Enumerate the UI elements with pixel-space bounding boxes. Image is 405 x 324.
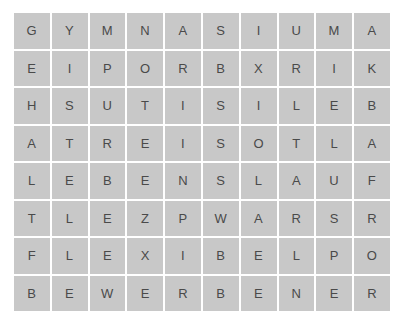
letter-cell[interactable]: L [316, 126, 352, 162]
letter-cell[interactable]: N [165, 163, 201, 199]
letter-cell[interactable]: B [203, 51, 239, 87]
letter-cell[interactable]: E [241, 276, 277, 312]
letter-cell[interactable]: A [165, 13, 201, 49]
letter-cell[interactable]: S [203, 163, 239, 199]
letter-cell[interactable]: I [241, 13, 277, 49]
letter-cell[interactable]: R [354, 201, 390, 237]
letter-cell[interactable]: H [14, 88, 50, 124]
letter-cell[interactable]: E [90, 238, 126, 274]
letter-cell[interactable]: U [90, 88, 126, 124]
letter-cell[interactable]: Z [127, 201, 163, 237]
letter-cell[interactable]: W [90, 276, 126, 312]
letter-cell[interactable]: A [354, 126, 390, 162]
letter-cell[interactable]: Y [52, 13, 88, 49]
letter-cell[interactable]: T [14, 201, 50, 237]
letter-cell[interactable]: L [279, 238, 315, 274]
letter-cell[interactable]: K [354, 51, 390, 87]
letter-cell[interactable]: E [316, 88, 352, 124]
letter-cell[interactable]: O [354, 238, 390, 274]
letter-cell[interactable]: E [316, 276, 352, 312]
letter-cell[interactable]: X [241, 51, 277, 87]
letter-cell[interactable]: B [203, 276, 239, 312]
letter-cell[interactable]: O [127, 51, 163, 87]
letter-cell[interactable]: I [241, 88, 277, 124]
letter-cell[interactable]: R [90, 126, 126, 162]
letter-cell[interactable]: W [203, 201, 239, 237]
letter-cell[interactable]: E [52, 276, 88, 312]
letter-cell[interactable]: T [279, 126, 315, 162]
letter-cell[interactable]: M [90, 13, 126, 49]
letter-cell[interactable]: F [354, 163, 390, 199]
letter-cell[interactable]: R [279, 51, 315, 87]
letter-cell[interactable]: S [316, 201, 352, 237]
letter-cell[interactable]: E [127, 126, 163, 162]
letter-cell[interactable]: E [127, 276, 163, 312]
letter-cell[interactable]: E [241, 238, 277, 274]
letter-cell[interactable]: T [52, 126, 88, 162]
letter-cell[interactable]: A [14, 126, 50, 162]
letter-cell[interactable]: I [165, 88, 201, 124]
letter-cell[interactable]: B [203, 238, 239, 274]
letter-cell[interactable]: R [165, 276, 201, 312]
letter-cell[interactable]: B [14, 276, 50, 312]
letter-cell[interactable]: N [279, 276, 315, 312]
letter-cell[interactable]: B [354, 88, 390, 124]
letter-cell[interactable]: O [241, 126, 277, 162]
letter-cell[interactable]: E [52, 163, 88, 199]
letter-cell[interactable]: S [203, 13, 239, 49]
word-search-puzzle: GYMNASIUMAEIPORBXRIKHSUTISILEBATREISOTLA… [0, 0, 405, 324]
letter-cell[interactable]: S [203, 88, 239, 124]
letter-cell[interactable]: F [14, 238, 50, 274]
letter-cell[interactable]: B [90, 163, 126, 199]
letter-cell[interactable]: G [14, 13, 50, 49]
letter-cell[interactable]: X [127, 238, 163, 274]
letter-cell[interactable]: I [316, 51, 352, 87]
letter-cell[interactable]: E [14, 51, 50, 87]
letter-grid: GYMNASIUMAEIPORBXRIKHSUTISILEBATREISOTLA… [14, 13, 390, 311]
letter-cell[interactable]: N [127, 13, 163, 49]
letter-cell[interactable]: E [127, 163, 163, 199]
letter-cell[interactable]: I [165, 126, 201, 162]
letter-cell[interactable]: L [241, 163, 277, 199]
letter-cell[interactable]: L [52, 201, 88, 237]
letter-cell[interactable]: E [90, 201, 126, 237]
letter-cell[interactable]: R [165, 51, 201, 87]
letter-cell[interactable]: I [52, 51, 88, 87]
letter-cell[interactable]: L [52, 238, 88, 274]
letter-cell[interactable]: P [90, 51, 126, 87]
letter-cell[interactable]: L [279, 88, 315, 124]
letter-cell[interactable]: R [354, 276, 390, 312]
letter-cell[interactable]: A [241, 201, 277, 237]
letter-cell[interactable]: U [279, 13, 315, 49]
letter-cell[interactable]: I [165, 238, 201, 274]
letter-cell[interactable]: S [52, 88, 88, 124]
letter-cell[interactable]: T [127, 88, 163, 124]
letter-cell[interactable]: A [279, 163, 315, 199]
letter-cell[interactable]: S [203, 126, 239, 162]
letter-cell[interactable]: A [354, 13, 390, 49]
letter-cell[interactable]: L [14, 163, 50, 199]
letter-cell[interactable]: P [165, 201, 201, 237]
letter-cell[interactable]: R [279, 201, 315, 237]
letter-cell[interactable]: U [316, 163, 352, 199]
letter-cell[interactable]: M [316, 13, 352, 49]
letter-cell[interactable]: P [316, 238, 352, 274]
